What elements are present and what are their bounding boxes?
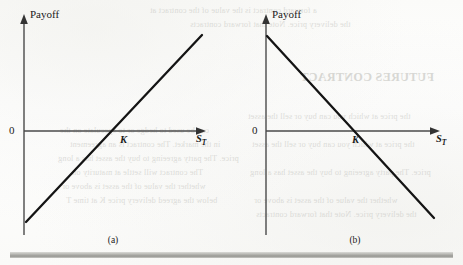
- payoff-chart-b: Payoff 0 K ST (b): [231, 0, 463, 265]
- payoff-line-b: [267, 36, 434, 218]
- y-axis-arrowhead-a: [20, 14, 28, 24]
- x-axis-label-b: ST: [436, 133, 446, 147]
- x-axis-label-a: ST: [196, 133, 206, 147]
- x-axis-label-sub-b: T: [442, 138, 447, 147]
- payoff-line-a: [26, 35, 202, 222]
- panel-caption-b: (b): [335, 235, 375, 245]
- y-axis-label-a: Payoff: [30, 8, 59, 20]
- payoff-chart-a: Payoff 0 K ST (a): [0, 0, 232, 265]
- x-axis-label-sub-a: T: [202, 138, 207, 147]
- y-axis-arrowhead-b: [262, 14, 270, 24]
- strike-label-b: K: [352, 134, 359, 145]
- origin-label-b: 0: [252, 124, 258, 136]
- panel-caption-a: (a): [93, 235, 133, 245]
- figure-page: a forward contract is the value of the c…: [0, 0, 463, 265]
- y-axis-label-b: Payoff: [272, 8, 301, 20]
- origin-label-a: 0: [9, 124, 15, 136]
- page-bottom-rule: [10, 252, 453, 258]
- strike-label-a: K: [120, 134, 127, 145]
- payoff-axes-b: [231, 0, 463, 265]
